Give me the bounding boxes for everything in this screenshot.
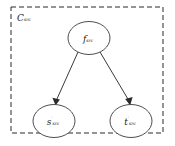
node-t-src-subscript: src [129,121,136,126]
node-s-src-subscript: src [52,121,59,126]
edge-f-to-s [57,52,79,100]
node-t-src-superscript: ′ [128,116,129,121]
edge-f-to-t [100,52,129,100]
node-s-src-superscript: ′ [51,116,52,121]
node-f-src-subscript: src [86,38,93,43]
graph-figure: Csrc fsrc s′src t′src [0,0,175,146]
container-label-subscript: src [24,17,31,22]
container-label-src: Csrc [17,13,31,23]
diagram-canvas: Csrc fsrc s′src t′src [0,0,175,146]
